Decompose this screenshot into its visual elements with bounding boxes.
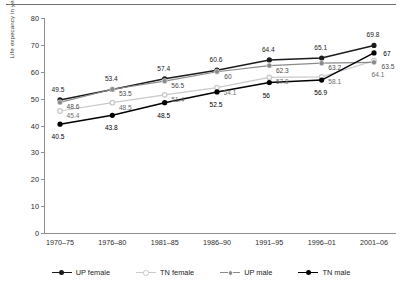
data-point — [214, 89, 219, 94]
data-point — [371, 60, 376, 65]
y-tick-label: 20 — [31, 175, 39, 184]
data-point-label: 49.5 — [52, 85, 65, 92]
data-point — [267, 57, 272, 62]
y-tick-label: 60 — [31, 67, 39, 76]
legend-item[interactable]: UP female — [52, 268, 110, 277]
data-point — [57, 100, 62, 105]
legend-item[interactable]: UP male — [220, 268, 272, 277]
data-point-label: 45.4 — [67, 111, 80, 118]
legend-swatch-icon — [52, 269, 72, 276]
data-point-label: 62.3 — [276, 66, 289, 73]
data-point — [110, 113, 115, 118]
x-tick-label: 1991–95 — [255, 238, 283, 247]
data-point-label: 64.4 — [262, 45, 275, 52]
data-point-label: 56.5 — [171, 82, 184, 89]
data-point — [215, 85, 220, 90]
legend-label: UP female — [76, 268, 110, 277]
data-point-label: 53.5 — [119, 90, 132, 97]
x-tick-label: 1970–75 — [46, 238, 74, 247]
data-point — [319, 55, 324, 60]
data-point-label: 60.6 — [210, 56, 223, 63]
line-chart: Life expecancy in years 0102030405060708… — [0, 10, 402, 282]
data-point — [57, 122, 62, 127]
plot-area: 01020304050607080 49.553.457.460.664.465… — [44, 18, 392, 233]
series-layer — [44, 18, 392, 233]
x-axis-line — [44, 233, 396, 234]
data-point — [319, 61, 324, 66]
data-point-label: 53.4 — [105, 75, 118, 82]
y-tick-label: 80 — [31, 14, 39, 23]
legend-swatch-icon — [136, 269, 156, 276]
y-axis-title: Life expecancy in years — [8, 0, 15, 80]
data-point — [371, 50, 376, 55]
y-tick-label: 70 — [31, 40, 39, 49]
legend-label: UP male — [244, 268, 272, 277]
data-point-label: 57.4 — [157, 64, 170, 71]
data-point — [110, 87, 115, 92]
data-point — [267, 63, 272, 68]
chart-legend: UP femaleTN femaleUP maleTN male — [0, 268, 402, 277]
data-point — [110, 100, 115, 105]
data-point-label: 48.5 — [119, 103, 132, 110]
legend-item[interactable]: TN male — [298, 268, 350, 277]
data-point-label: 48.5 — [157, 111, 170, 118]
y-tick-label: 10 — [31, 202, 39, 211]
data-point-label: 51.4 — [171, 95, 184, 102]
data-point-label: 48.6 — [67, 103, 80, 110]
data-point-label: 58.1 — [328, 77, 341, 84]
data-point-label: 56.9 — [314, 89, 327, 96]
data-point-label: 43.8 — [105, 124, 118, 131]
data-point — [162, 79, 167, 84]
data-point-label: 67 — [383, 49, 390, 56]
data-point-label: 52.5 — [210, 100, 223, 107]
legend-label: TN male — [322, 268, 350, 277]
top-divider — [6, 4, 396, 5]
y-tick-label: 40 — [31, 121, 39, 130]
data-point — [162, 100, 167, 105]
data-point-label: 54.1 — [224, 88, 237, 95]
x-tick-label: 1996–01 — [308, 238, 336, 247]
x-tick-label: 1981–85 — [151, 238, 179, 247]
x-tick-label: 1986–90 — [203, 238, 231, 247]
y-tick-label: 30 — [31, 148, 39, 157]
y-tick-label: 50 — [31, 94, 39, 103]
legend-label: TN female — [160, 268, 194, 277]
data-point — [162, 93, 167, 98]
data-point-label: 56 — [263, 91, 270, 98]
data-point-label: 63.2 — [328, 64, 341, 71]
data-point-label: 63.5 — [382, 63, 395, 70]
legend-swatch-icon — [220, 269, 240, 276]
data-point — [267, 80, 272, 85]
y-tick-label: 0 — [35, 229, 39, 238]
data-point-label: 40.5 — [52, 133, 65, 140]
x-tick-label: 2001–06 — [360, 238, 388, 247]
data-point — [371, 43, 376, 48]
legend-swatch-icon — [298, 269, 318, 276]
data-point — [319, 77, 324, 82]
legend-item[interactable]: TN female — [136, 268, 194, 277]
data-point-label: 57.9 — [276, 78, 289, 85]
data-point-label: 69.8 — [367, 31, 380, 38]
x-tick-label: 1976–80 — [98, 238, 126, 247]
data-point-label: 64.1 — [372, 70, 385, 77]
data-point-label: 65.1 — [314, 44, 327, 51]
data-point-label: 60 — [224, 72, 231, 79]
data-point — [58, 109, 63, 114]
data-point — [214, 69, 219, 74]
data-point — [267, 75, 272, 80]
y-tick-mark — [41, 233, 44, 234]
